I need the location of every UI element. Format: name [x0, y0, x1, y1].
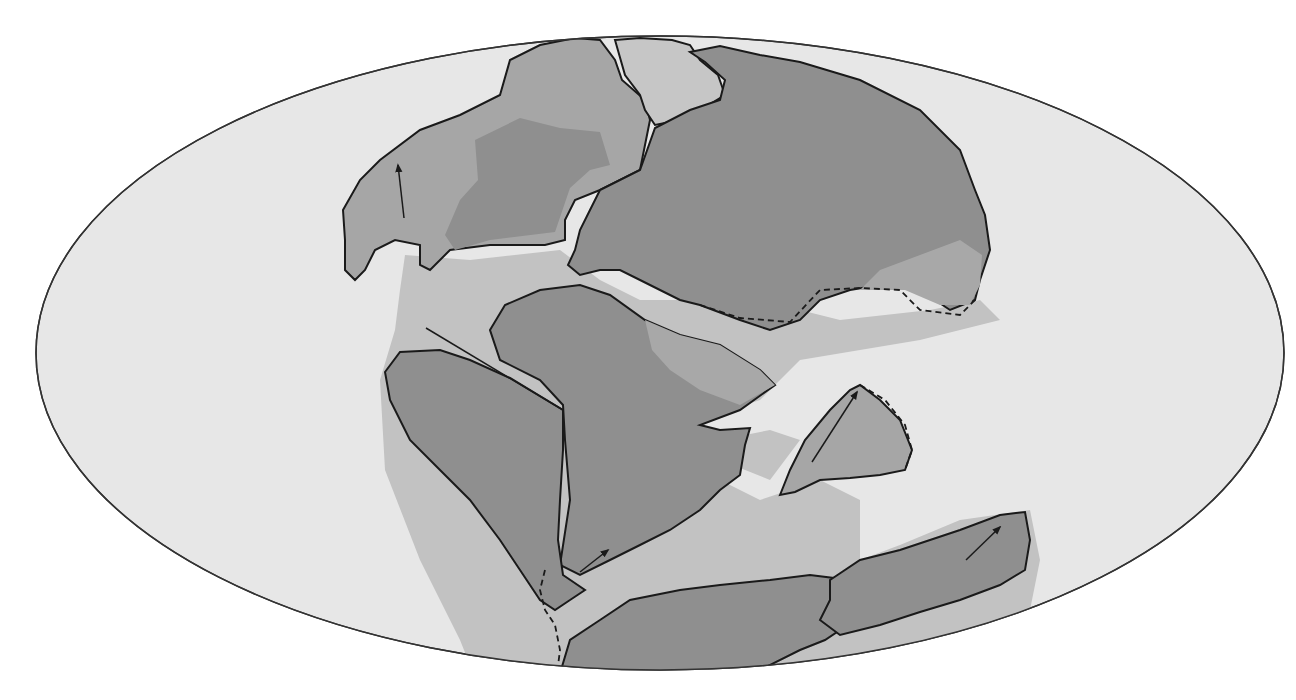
map-canvas [0, 0, 1296, 700]
paleogeographic-map: Paleogeographic reconstruction (Pangaea)… [0, 0, 1296, 700]
